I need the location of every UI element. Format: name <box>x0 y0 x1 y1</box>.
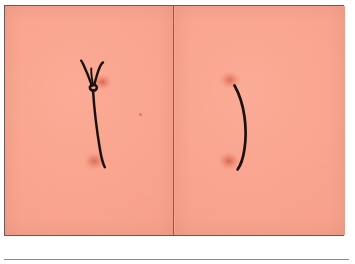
photo-plate <box>4 5 344 236</box>
figure-root <box>0 0 355 264</box>
panel-left <box>5 6 174 235</box>
footer-rule <box>4 259 349 260</box>
suture-illustration-right <box>175 6 345 235</box>
suture-illustration-left <box>5 6 173 235</box>
panel-right <box>175 6 345 235</box>
puncture-upper <box>218 70 242 90</box>
suture-knot-eye <box>92 87 94 89</box>
